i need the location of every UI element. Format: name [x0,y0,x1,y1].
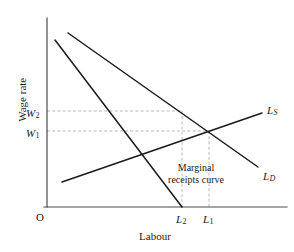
y-tick-w1-sub: 1 [35,131,39,140]
origin-label: O [36,212,44,224]
y-axis-title: Wage rate [17,68,29,132]
x-tick-l1-sub: 1 [209,217,213,226]
y-tick-w2-sub: 2 [35,111,39,120]
y-tick-w2: W2 [26,104,39,121]
x-tick-l1: L1 [203,210,213,227]
x-tick-l2-sub: 2 [182,217,186,226]
curve-label-ls-sub: S [273,108,277,117]
marginal-receipts-annotation: Marginal receipts curve [147,162,245,186]
plot-area [0,0,294,252]
curve-label-labour-supply: LS [267,101,277,118]
y-tick-w1: W1 [26,124,39,141]
wage-labour-diagram: Wage rate Labour O W2 W1 L2 L1 LS LD Mar… [0,0,294,252]
marginal-receipts-line-1: Marginal [147,162,245,174]
x-axis-title: Labour [120,231,190,243]
y-tick-w1-main: W [26,127,35,139]
marginal-receipts-line-2: receipts curve [147,174,245,186]
curve-label-ld-sub: D [269,174,275,183]
x-tick-l2: L2 [176,210,186,227]
y-tick-w2-main: W [26,107,35,119]
curve-label-labour-demand: LD [263,167,275,184]
